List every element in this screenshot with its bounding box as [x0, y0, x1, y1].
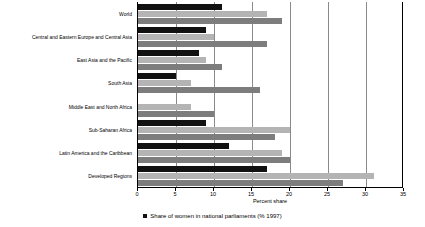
- x-axis-title: Percent share: [137, 198, 403, 205]
- category-label: East Asia and the Pacific: [77, 57, 132, 63]
- bar-group: [138, 95, 402, 118]
- bar: [138, 157, 290, 163]
- x-tick-label: 25: [324, 191, 330, 198]
- bar-group: [138, 118, 402, 141]
- bar: [138, 143, 229, 149]
- plot-area: [137, 2, 403, 188]
- chart-legend: Share of women in national parliaments (…: [0, 212, 425, 220]
- bar: [138, 150, 282, 156]
- bar: [138, 41, 267, 47]
- chart-container: WorldCentral and Eastern Europe and Cent…: [0, 0, 425, 227]
- bar-group: [138, 49, 402, 72]
- category-label: Middle East and North Africa: [69, 104, 132, 110]
- bar: [138, 50, 199, 56]
- x-tick-label: 20: [286, 191, 292, 198]
- bar: [138, 104, 191, 110]
- x-axis-ticks: 05101520253035: [137, 188, 403, 198]
- category-label: World: [119, 11, 132, 17]
- bar-group: [138, 72, 402, 95]
- legend-label: Share of women in national parliaments (…: [150, 212, 281, 220]
- bar: [138, 120, 206, 126]
- bar: [138, 180, 343, 186]
- bar: [138, 173, 374, 179]
- bar: [138, 87, 260, 93]
- bar-group: [138, 2, 402, 25]
- x-tick-label: 30: [362, 191, 368, 198]
- category-label: Latin America and the Caribbean: [59, 150, 132, 156]
- bar: [138, 18, 282, 24]
- category-label: Sub-Saharan Africa: [89, 127, 132, 133]
- bar: [138, 166, 267, 172]
- bar: [138, 64, 222, 70]
- bar: [138, 11, 267, 17]
- bar-group: [138, 25, 402, 48]
- category-label: Central and Eastern Europe and Central A…: [32, 34, 132, 40]
- legend-item: Share of women in national parliaments (…: [143, 212, 281, 220]
- category-label: South Asia: [108, 80, 132, 86]
- x-tick-label: 0: [135, 191, 138, 198]
- y-axis-category-labels: WorldCentral and Eastern Europe and Cent…: [0, 2, 135, 188]
- bar-group: [138, 165, 402, 188]
- bar: [138, 27, 206, 33]
- x-tick-label: 15: [248, 191, 254, 198]
- bar: [138, 4, 222, 10]
- bar-groups: [138, 2, 402, 187]
- bar: [138, 73, 176, 79]
- bar-group: [138, 142, 402, 165]
- bar: [138, 127, 290, 133]
- x-tick-label: 5: [173, 191, 176, 198]
- bar: [138, 57, 206, 63]
- legend-swatch-icon: [143, 214, 147, 218]
- x-tick-label: 35: [400, 191, 406, 198]
- bar: [138, 111, 214, 117]
- bar: [138, 134, 275, 140]
- category-label: Developed Regions: [88, 173, 132, 179]
- x-tick-label: 10: [210, 191, 216, 198]
- bar: [138, 80, 191, 86]
- bar: [138, 34, 214, 40]
